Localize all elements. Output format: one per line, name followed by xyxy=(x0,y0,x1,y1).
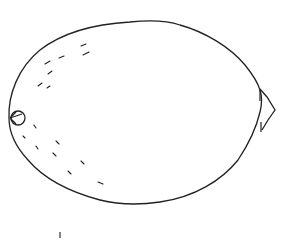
lemon-outline xyxy=(9,21,262,204)
lemon-illustration xyxy=(0,0,286,239)
lemon-tip xyxy=(260,89,275,130)
lemon-drawing xyxy=(0,0,286,239)
peel-pores xyxy=(23,44,103,184)
stem-end-icon xyxy=(10,111,25,125)
